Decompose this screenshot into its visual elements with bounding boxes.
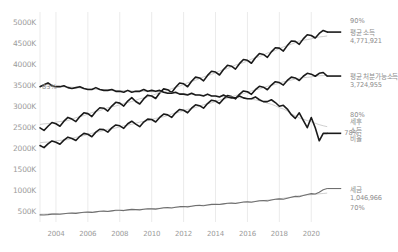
y-axis-left-tick: 2000K xyxy=(2,144,36,153)
y-axis-left-tick: 3500K xyxy=(2,81,36,90)
y-axis-left-tick: 1500K xyxy=(2,165,36,174)
series-label-tax-name: 세금 xyxy=(350,186,362,194)
x-axis-tick: 2008 xyxy=(104,230,136,238)
series-label-avg-disposable: 평균 처분가능소득 3,724,955 xyxy=(350,73,398,89)
x-axis-tick: 2018 xyxy=(263,230,295,238)
series-label-avg-income-value: 4,771,921 xyxy=(350,37,382,45)
x-axis-tick: 2020 xyxy=(295,230,327,238)
gridlines xyxy=(56,12,311,222)
series-label-ratio-line1: 세후 xyxy=(350,118,362,126)
series-label-avg-income-name: 평균 소득 xyxy=(350,29,375,37)
series-label-ratio-line3: 비율 xyxy=(350,135,362,143)
series-label-after-tax-ratio: 세후 소득 비율 xyxy=(350,118,362,143)
x-axis-tick: 2004 xyxy=(40,230,72,238)
right-axis-tick-90: 90% xyxy=(350,17,365,25)
y-axis-left-tick: 5000K xyxy=(2,18,36,27)
ratio-start-callout-83: 83% xyxy=(42,83,57,91)
series-label-avg-income: 평균 소득 4,771,921 xyxy=(350,29,382,45)
x-axis-tick: 2014 xyxy=(200,230,232,238)
x-axis-tick: 2010 xyxy=(136,230,168,238)
right-axis-tick-70: 70% xyxy=(350,204,365,212)
series-label-avg-disposable-name: 평균 처분가능소득 xyxy=(350,73,398,81)
y-axis-left-tick: 500K xyxy=(2,207,36,216)
y-axis-left-tick: 1000K xyxy=(2,186,36,195)
x-axis-tick: 2006 xyxy=(72,230,104,238)
series-label-avg-disposable-value: 3,724,955 xyxy=(350,81,398,89)
x-axis-tick: 2016 xyxy=(231,230,263,238)
chart-plot-area xyxy=(0,0,398,252)
y-axis-left-tick: 4500K xyxy=(2,39,36,48)
x-axis-tick: 2012 xyxy=(168,230,200,238)
chart-container: 500K1000K1500K2000K2500K3000K3500K4000K4… xyxy=(0,0,398,252)
y-axis-left-tick: 2500K xyxy=(2,123,36,132)
series-label-ratio-line2: 소득 xyxy=(350,127,362,135)
series-label-tax: 세금 1,046,966 xyxy=(350,186,382,202)
y-axis-left-tick: 3000K xyxy=(2,102,36,111)
series-label-tax-value: 1,046,966 xyxy=(350,194,382,202)
y-axis-left-tick: 4000K xyxy=(2,60,36,69)
